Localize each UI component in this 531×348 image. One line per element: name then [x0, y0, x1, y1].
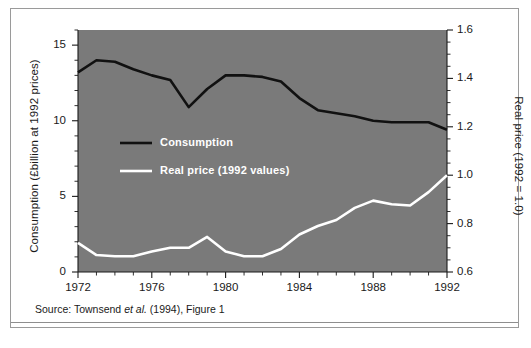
ticks-x	[78, 272, 447, 278]
source-note-prefix: Source: Townsend	[35, 303, 124, 315]
x-tick-label: 1980	[196, 281, 256, 293]
y-tick-label-left: 15	[36, 38, 66, 50]
plot-background	[78, 30, 447, 272]
y-tick-label-left: 0	[36, 265, 66, 277]
source-note-italic: et al.	[124, 303, 147, 315]
legend-label-consumption: Consumption	[160, 136, 233, 148]
y-axis-label-right: Real price (1992 = 1.0)	[513, 46, 525, 266]
y-tick-label-left: 10	[36, 114, 66, 126]
source-note: Source: Townsend et al. (1994), Figure 1	[35, 303, 225, 315]
x-tick-label: 1992	[417, 281, 477, 293]
legend-label-real-price: Real price (1992 values)	[160, 164, 290, 176]
ticks-y-right	[447, 30, 453, 272]
source-divider	[11, 322, 518, 323]
y-tick-label-right: 1.4	[457, 71, 493, 83]
y-tick-label-left: 5	[36, 189, 66, 201]
y-tick-label-right: 1.2	[457, 120, 493, 132]
x-tick-label: 1988	[343, 281, 403, 293]
x-tick-label: 1972	[48, 281, 108, 293]
x-tick-label: 1984	[269, 281, 329, 293]
y-tick-label-right: 1.6	[457, 23, 493, 35]
y-axis-label-left: Consumption (£billion at 1992 prices)	[28, 46, 40, 266]
source-note-suffix: (1994), Figure 1	[147, 303, 225, 315]
ticks-y-left	[72, 30, 78, 272]
y-tick-label-right: 1.0	[457, 168, 493, 180]
x-tick-label: 1976	[122, 281, 182, 293]
y-tick-label-right: 0.8	[457, 217, 493, 229]
y-tick-label-right: 0.6	[457, 265, 493, 277]
